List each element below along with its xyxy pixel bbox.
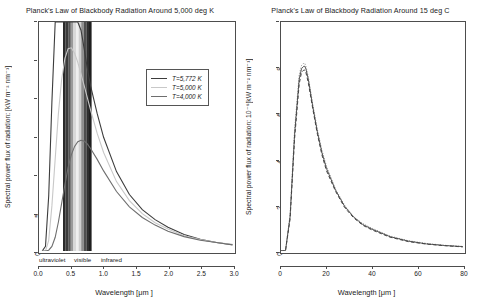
legend-label-T5772: T=5,772 K bbox=[169, 75, 202, 82]
x-tick-0: 0.0 bbox=[33, 270, 42, 277]
panel-right-x-axis-label: Wavelength [μm ] bbox=[246, 288, 481, 297]
x-tick-20: 2.0 bbox=[164, 270, 173, 277]
y-tickmark-15 bbox=[34, 137, 37, 138]
panel-right-15C: Planck's Law of Blackbody Radiation Arou… bbox=[240, 0, 481, 307]
panel-left-title: Planck's Law of Blackbody Radiation Arou… bbox=[0, 6, 240, 15]
legend-line-icon-T4000 bbox=[149, 92, 169, 101]
x-tick-30: 3.0 bbox=[229, 270, 238, 277]
x-axis-line bbox=[38, 266, 234, 267]
x-tickmark-30 bbox=[234, 266, 235, 269]
band-label-ultraviolet: ultraviolet bbox=[39, 256, 65, 263]
panel-right-plot-area bbox=[280, 21, 466, 254]
x-tick-15: 1.5 bbox=[131, 270, 140, 277]
x-tick-0: 0 bbox=[278, 270, 282, 277]
y-tickmark-30 bbox=[34, 21, 37, 22]
panel-left-y-axis-label: Spectral power flux of radiation: [kW m⁻… bbox=[4, 26, 12, 248]
y-tickmark-10 bbox=[276, 21, 279, 22]
legend-item-T5000[interactable]: T=5,000 K bbox=[149, 83, 202, 92]
y-tickmark-5 bbox=[34, 214, 37, 215]
x-axis-line bbox=[280, 266, 464, 267]
curve-T17C bbox=[281, 63, 463, 251]
y-tickmark-2 bbox=[276, 206, 279, 207]
panel-left-x-axis-label: Wavelength [μm ] bbox=[4, 288, 244, 297]
x-tick-10: 1.0 bbox=[99, 270, 108, 277]
y-tickmark-10 bbox=[34, 175, 37, 176]
panel-left-svg bbox=[39, 22, 233, 251]
legend-item-T5772[interactable]: T=5,772 K bbox=[149, 74, 202, 83]
y-tickmark-8 bbox=[276, 67, 279, 68]
curve-T15C bbox=[281, 66, 463, 251]
x-tick-40: 40 bbox=[368, 270, 375, 277]
band-label-visible: visible bbox=[74, 256, 91, 263]
y-tickmark-0 bbox=[34, 252, 37, 253]
visible-spectrum-bands bbox=[63, 22, 92, 251]
y-tickmark-20 bbox=[34, 98, 37, 99]
x-tickmark-80 bbox=[464, 266, 465, 269]
legend-line-icon-T5000 bbox=[149, 83, 169, 92]
curve-T13C bbox=[281, 70, 463, 251]
legend-label-T5000: T=5,000 K bbox=[169, 84, 202, 91]
x-tick-20: 20 bbox=[322, 270, 329, 277]
panel-left-5000K: Planck's Law of Blackbody Radiation Arou… bbox=[0, 0, 240, 307]
x-tick-60: 60 bbox=[414, 270, 421, 277]
panel-right-svg bbox=[281, 22, 463, 251]
panel-left-legend[interactable]: T=5,772 K T=5,000 K T=4,000 K bbox=[146, 69, 209, 106]
legend-item-T4000[interactable]: T=4,000 K bbox=[149, 92, 202, 101]
x-tick-25: 2.5 bbox=[197, 270, 206, 277]
figure-canvas: Planck's Law of Blackbody Radiation Arou… bbox=[0, 0, 481, 307]
panel-right-title: Planck's Law of Blackbody Radiation Arou… bbox=[240, 6, 481, 15]
y-tickmark-0 bbox=[276, 252, 279, 253]
y-tickmark-25 bbox=[34, 60, 37, 61]
panel-right-y-axis-label: Spectral power flux of radiation: 10⁻⁶[k… bbox=[245, 22, 253, 252]
legend-line-icon-T5772 bbox=[149, 74, 169, 83]
panel-left-plot-area bbox=[38, 21, 236, 254]
y-tickmark-6 bbox=[276, 113, 279, 114]
legend-label-T4000: T=4,000 K bbox=[169, 93, 202, 100]
x-tick-05: 0.5 bbox=[66, 270, 75, 277]
band-label-infrared: infrared bbox=[101, 256, 122, 263]
x-tick-80: 80 bbox=[460, 270, 467, 277]
y-tickmark-4 bbox=[276, 160, 279, 161]
